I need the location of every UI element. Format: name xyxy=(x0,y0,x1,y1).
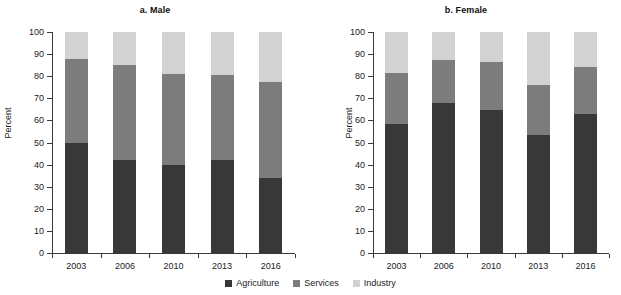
bar-segment-agriculture-female-2013 xyxy=(527,135,550,253)
bar-female-2010[interactable] xyxy=(480,32,503,253)
bar-segment-industry-female-2016 xyxy=(574,32,597,67)
y-tick-female-30 xyxy=(368,187,373,188)
y-tick-female-90 xyxy=(368,54,373,55)
legend-item-industry[interactable]: Industry xyxy=(353,278,396,288)
y-tick-label-female-30: 30 xyxy=(355,182,365,192)
x-tick-label-female-2016: 2016 xyxy=(575,261,595,271)
bar-segment-services-male-2010 xyxy=(162,74,185,165)
bar-segment-agriculture-female-2003 xyxy=(385,124,408,253)
y-tick-label-male-60: 60 xyxy=(34,115,44,125)
y-tick-label-female-100: 100 xyxy=(350,27,365,37)
y-tick-label-male-100: 100 xyxy=(29,27,44,37)
plot-area-female: 0102030405060708090100200320062010201320… xyxy=(373,32,609,254)
bar-male-2010[interactable] xyxy=(162,32,185,253)
bar-segment-industry-male-2013 xyxy=(211,32,234,75)
y-axis-line-male xyxy=(52,32,53,254)
y-tick-label-female-70: 70 xyxy=(355,93,365,103)
x-tick-label-male-2013: 2013 xyxy=(212,261,232,271)
bar-segment-agriculture-female-2016 xyxy=(574,114,597,253)
bar-segment-industry-male-2006 xyxy=(113,32,136,65)
x-tick-male-2010 xyxy=(149,254,150,258)
bar-segment-industry-female-2006 xyxy=(432,32,455,60)
bar-segment-agriculture-male-2006 xyxy=(113,160,136,253)
legend-label-industry: Industry xyxy=(364,278,396,288)
bar-segment-services-female-2010 xyxy=(480,62,503,111)
y-tick-label-male-70: 70 xyxy=(34,93,44,103)
x-tick-female-2003 xyxy=(373,254,374,258)
y-tick-label-female-40: 40 xyxy=(355,160,365,170)
y-tick-label-male-50: 50 xyxy=(34,138,44,148)
y-tick-label-male-0: 0 xyxy=(39,248,44,258)
legend-swatch-industry-icon xyxy=(353,280,360,287)
y-tick-male-90 xyxy=(47,54,52,55)
bar-segment-services-male-2016 xyxy=(259,82,282,178)
bar-segment-agriculture-male-2003 xyxy=(65,143,88,254)
bar-segment-industry-female-2010 xyxy=(480,32,503,62)
y-tick-female-40 xyxy=(368,165,373,166)
y-tick-male-40 xyxy=(47,165,52,166)
y-tick-female-100 xyxy=(368,32,373,33)
bar-male-2006[interactable] xyxy=(113,32,136,253)
y-tick-female-10 xyxy=(368,231,373,232)
legend-item-services[interactable]: Services xyxy=(293,278,339,288)
y-tick-label-female-60: 60 xyxy=(355,115,365,125)
bar-segment-industry-male-2003 xyxy=(65,32,88,59)
panel-title-male: a. Male xyxy=(0,5,310,15)
x-tick-label-male-2006: 2006 xyxy=(115,261,135,271)
x-tick-label-female-2010: 2010 xyxy=(481,261,501,271)
y-tick-male-50 xyxy=(47,143,52,144)
x-tick-male-2006 xyxy=(101,254,102,258)
panel-female: b. Female Percent 0102030405060708090100… xyxy=(311,0,621,276)
bar-segment-agriculture-female-2006 xyxy=(432,103,455,253)
x-axis-line-female xyxy=(373,253,609,254)
legend: AgricultureServicesIndustry xyxy=(0,278,621,288)
bar-segment-industry-female-2013 xyxy=(527,32,550,85)
y-tick-male-60 xyxy=(47,120,52,121)
x-tick-label-male-2003: 2003 xyxy=(66,261,86,271)
bar-segment-services-male-2006 xyxy=(113,65,136,160)
bar-segment-industry-male-2010 xyxy=(162,32,185,74)
bar-male-2013[interactable] xyxy=(211,32,234,253)
y-tick-label-male-20: 20 xyxy=(34,204,44,214)
y-tick-female-70 xyxy=(368,98,373,99)
y-tick-female-60 xyxy=(368,120,373,121)
plot-area-male: 0102030405060708090100200320062010201320… xyxy=(52,32,295,254)
bar-segment-industry-male-2016 xyxy=(259,32,282,82)
bar-segment-services-female-2013 xyxy=(527,85,550,135)
bar-male-2003[interactable] xyxy=(65,32,88,253)
x-tick-label-female-2003: 2003 xyxy=(387,261,407,271)
y-tick-female-80 xyxy=(368,76,373,77)
bar-segment-agriculture-male-2013 xyxy=(211,160,234,253)
bar-segment-services-female-2006 xyxy=(432,60,455,103)
bar-female-2016[interactable] xyxy=(574,32,597,253)
y-axis-label-female: Percent xyxy=(344,93,354,153)
bar-segment-agriculture-male-2010 xyxy=(162,165,185,253)
bar-segment-services-male-2003 xyxy=(65,59,88,143)
bar-female-2003[interactable] xyxy=(385,32,408,253)
y-tick-label-male-90: 90 xyxy=(34,49,44,59)
panel-male: a. Male Percent 010203040506070809010020… xyxy=(0,0,310,276)
y-tick-label-female-10: 10 xyxy=(355,226,365,236)
bar-female-2006[interactable] xyxy=(432,32,455,253)
bar-segment-agriculture-male-2016 xyxy=(259,178,282,253)
x-tick-label-male-2010: 2010 xyxy=(163,261,183,271)
legend-item-agriculture[interactable]: Agriculture xyxy=(225,278,279,288)
y-tick-label-male-80: 80 xyxy=(34,71,44,81)
bar-segment-agriculture-female-2010 xyxy=(480,110,503,253)
y-tick-male-10 xyxy=(47,231,52,232)
bar-male-2016[interactable] xyxy=(259,32,282,253)
bar-segment-services-female-2003 xyxy=(385,73,408,124)
x-tick-male-2016 xyxy=(295,254,296,258)
y-axis-label-male: Percent xyxy=(3,93,13,153)
bar-segment-services-male-2013 xyxy=(211,75,234,160)
y-tick-label-female-50: 50 xyxy=(355,138,365,148)
y-tick-label-male-30: 30 xyxy=(34,182,44,192)
y-tick-male-100 xyxy=(47,32,52,33)
bar-female-2013[interactable] xyxy=(527,32,550,253)
y-tick-female-20 xyxy=(368,209,373,210)
y-tick-label-male-40: 40 xyxy=(34,160,44,170)
stacked-bar-figure: a. Male Percent 010203040506070809010020… xyxy=(0,0,621,295)
x-tick-female-2006 xyxy=(420,254,421,258)
y-tick-male-70 xyxy=(47,98,52,99)
y-tick-male-80 xyxy=(47,76,52,77)
